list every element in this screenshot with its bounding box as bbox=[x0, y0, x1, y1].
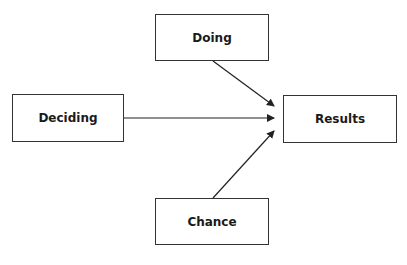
arrow-doing-to-results bbox=[213, 61, 274, 106]
node-deciding-label: Deciding bbox=[38, 111, 97, 125]
node-doing: Doing bbox=[155, 14, 269, 61]
node-doing-label: Doing bbox=[192, 31, 231, 45]
arrow-chance-to-results bbox=[213, 131, 274, 198]
node-chance-label: Chance bbox=[187, 215, 236, 229]
node-deciding: Deciding bbox=[12, 94, 124, 142]
node-results-label: Results bbox=[315, 112, 365, 126]
node-chance: Chance bbox=[155, 198, 269, 245]
node-results: Results bbox=[283, 95, 397, 143]
